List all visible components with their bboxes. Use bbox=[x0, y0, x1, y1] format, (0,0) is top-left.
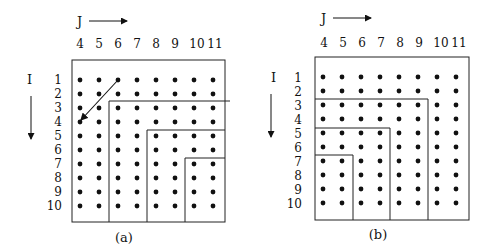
iteration-grid-a bbox=[0, 0, 247, 252]
iteration-point bbox=[192, 78, 197, 83]
iteration-point bbox=[211, 78, 216, 83]
iteration-point bbox=[359, 187, 364, 192]
dependence-arrow bbox=[81, 80, 118, 120]
iteration-point bbox=[435, 159, 440, 164]
iteration-point bbox=[397, 89, 402, 94]
iteration-point bbox=[321, 131, 326, 136]
iteration-point bbox=[154, 134, 159, 139]
iteration-point bbox=[435, 131, 440, 136]
iteration-point bbox=[454, 159, 459, 164]
iteration-point bbox=[359, 75, 364, 80]
iteration-point bbox=[454, 75, 459, 80]
iteration-point bbox=[359, 159, 364, 164]
iteration-point bbox=[192, 148, 197, 153]
iteration-point bbox=[97, 162, 102, 167]
iteration-point bbox=[321, 103, 326, 108]
iteration-point bbox=[416, 117, 421, 122]
iteration-point bbox=[78, 92, 83, 97]
iteration-point bbox=[378, 201, 383, 206]
iteration-point bbox=[211, 204, 216, 209]
iteration-point bbox=[321, 117, 326, 122]
iteration-point bbox=[135, 162, 140, 167]
iteration-point bbox=[192, 92, 197, 97]
iteration-point bbox=[340, 201, 345, 206]
iteration-point bbox=[378, 89, 383, 94]
iteration-point bbox=[211, 148, 216, 153]
iteration-point bbox=[397, 145, 402, 150]
iteration-point bbox=[78, 106, 83, 111]
iteration-grid-b bbox=[247, 0, 494, 252]
iteration-point bbox=[78, 204, 83, 209]
iteration-point bbox=[397, 187, 402, 192]
iteration-point bbox=[340, 145, 345, 150]
iteration-point bbox=[378, 173, 383, 178]
iteration-point bbox=[211, 120, 216, 125]
iteration-point bbox=[321, 145, 326, 150]
iteration-point bbox=[97, 204, 102, 209]
iteration-point bbox=[359, 145, 364, 150]
iteration-point bbox=[154, 204, 159, 209]
iteration-point bbox=[211, 190, 216, 195]
iteration-point bbox=[211, 162, 216, 167]
iteration-point bbox=[154, 190, 159, 195]
iteration-point bbox=[359, 131, 364, 136]
iteration-point bbox=[359, 173, 364, 178]
iteration-point bbox=[416, 89, 421, 94]
iteration-point bbox=[454, 187, 459, 192]
iteration-point bbox=[135, 148, 140, 153]
iteration-point bbox=[416, 187, 421, 192]
iteration-point bbox=[97, 176, 102, 181]
iteration-point bbox=[78, 162, 83, 167]
iteration-point bbox=[454, 103, 459, 108]
iteration-point bbox=[154, 148, 159, 153]
iteration-point bbox=[192, 134, 197, 139]
iteration-point bbox=[211, 134, 216, 139]
iteration-point bbox=[173, 78, 178, 83]
iteration-point bbox=[359, 201, 364, 206]
iteration-point bbox=[78, 176, 83, 181]
iteration-point bbox=[359, 89, 364, 94]
iteration-point bbox=[173, 148, 178, 153]
iteration-point bbox=[135, 134, 140, 139]
iteration-point bbox=[416, 145, 421, 150]
iteration-point bbox=[154, 92, 159, 97]
panel-a: J I 4 5 6 7 8 9 10 11 1 2 3 4 5 6 7 8 9 … bbox=[0, 0, 247, 252]
iteration-point bbox=[454, 201, 459, 206]
iteration-point bbox=[454, 131, 459, 136]
panel-b: J I 4 5 6 7 8 9 10 11 1 2 3 4 5 6 7 8 9 … bbox=[247, 0, 494, 252]
iteration-point bbox=[135, 78, 140, 83]
partition-line bbox=[185, 158, 225, 222]
iteration-point bbox=[340, 187, 345, 192]
iteration-point bbox=[454, 145, 459, 150]
iteration-point bbox=[340, 159, 345, 164]
iteration-point bbox=[321, 173, 326, 178]
iteration-point bbox=[378, 159, 383, 164]
iteration-point bbox=[135, 120, 140, 125]
iteration-point bbox=[435, 201, 440, 206]
iteration-point bbox=[173, 190, 178, 195]
iteration-point bbox=[378, 145, 383, 150]
iteration-point bbox=[116, 120, 121, 125]
iteration-point bbox=[97, 106, 102, 111]
iteration-point bbox=[173, 134, 178, 139]
caption-a: (a) bbox=[115, 230, 133, 245]
iteration-point bbox=[321, 187, 326, 192]
iteration-point bbox=[116, 162, 121, 167]
partition-line bbox=[109, 101, 230, 222]
iteration-point bbox=[397, 173, 402, 178]
iteration-point bbox=[416, 159, 421, 164]
iteration-point bbox=[116, 134, 121, 139]
iteration-point bbox=[416, 201, 421, 206]
iteration-point bbox=[340, 103, 345, 108]
iteration-point bbox=[173, 204, 178, 209]
iteration-point bbox=[97, 148, 102, 153]
iteration-point bbox=[173, 92, 178, 97]
iteration-point bbox=[135, 176, 140, 181]
iteration-point bbox=[173, 176, 178, 181]
iteration-point bbox=[340, 131, 345, 136]
iteration-point bbox=[192, 106, 197, 111]
iteration-point bbox=[135, 106, 140, 111]
iteration-point bbox=[116, 92, 121, 97]
iteration-point bbox=[454, 89, 459, 94]
iteration-point bbox=[435, 75, 440, 80]
